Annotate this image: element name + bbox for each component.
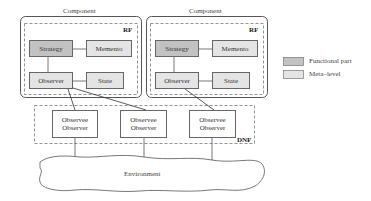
observer-box: Observer — [155, 72, 199, 89]
memento-box: Memento — [86, 40, 132, 57]
node-line1: Observee — [62, 116, 88, 124]
observee-observer-node: Observee Observer — [189, 110, 236, 138]
rf-label: RF — [249, 26, 258, 34]
node-line1: Observee — [199, 116, 225, 124]
node-line2: Observer — [131, 124, 157, 132]
legend-functional-part: Functional part — [309, 57, 352, 65]
component-title: Component — [189, 7, 222, 15]
observer-box: Observer — [29, 72, 73, 89]
legend-meta-level: Meta–level — [309, 70, 341, 78]
memento-box: Memento — [212, 40, 258, 57]
diagram-lines — [0, 0, 371, 201]
state-box: State — [212, 72, 250, 89]
rf-label: RF — [123, 26, 132, 34]
strategy-box: Strategy — [155, 40, 199, 57]
observee-observer-node: Observee Observer — [52, 110, 98, 138]
dnf-label: DNF — [237, 136, 251, 144]
component-title: Component — [63, 7, 96, 15]
environment-label: Environment — [124, 170, 161, 178]
node-line2: Observer — [200, 124, 226, 132]
node-line2: Observer — [62, 124, 88, 132]
observee-observer-node: Observee Observer — [120, 110, 167, 138]
state-box: State — [86, 72, 124, 89]
node-line1: Observee — [130, 116, 156, 124]
strategy-box: Strategy — [29, 40, 73, 57]
